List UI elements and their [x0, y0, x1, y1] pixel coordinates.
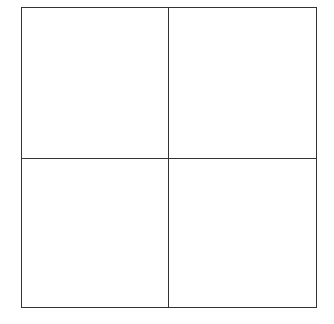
grid-cell-top-right: [169, 8, 316, 159]
grid-cell-bottom-right: [169, 159, 316, 307]
grid-cell-bottom-left: [22, 159, 169, 307]
grid-cell-top-left: [22, 8, 169, 159]
two-by-two-grid: [21, 7, 317, 308]
